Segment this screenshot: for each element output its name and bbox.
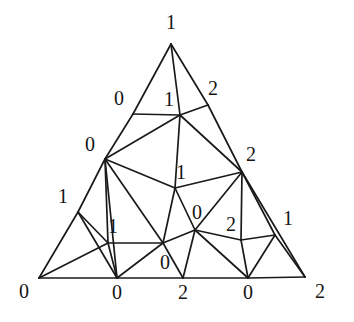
triangulation-edge bbox=[78, 159, 105, 212]
triangulation-edge bbox=[248, 235, 275, 278]
vertex-label-left-upper: 0 bbox=[114, 88, 124, 108]
triangulation-edge bbox=[163, 230, 195, 243]
vertex-label-bottom-2: 2 bbox=[178, 282, 188, 302]
vertex-label-inner-center: 1 bbox=[176, 162, 186, 182]
vertex-label-left-mid: 0 bbox=[85, 134, 95, 154]
triangulation-edge bbox=[117, 243, 163, 278]
triangulation-edge bbox=[180, 105, 208, 115]
triangulation-edge bbox=[248, 277, 305, 278]
vertex-label-apex: 1 bbox=[166, 12, 176, 32]
vertex-label-inner-right-low: 2 bbox=[226, 214, 236, 234]
vertex-label-bottom-1: 0 bbox=[112, 282, 122, 302]
triangulation-edge bbox=[105, 114, 133, 159]
vertex-label-inner-left: 1 bbox=[108, 216, 118, 236]
triangulation-edge bbox=[105, 115, 180, 159]
triangulation-edge bbox=[171, 44, 208, 105]
vertex-label-bottom-right-corner: 2 bbox=[315, 281, 325, 301]
vertex-label-inner-right: 0 bbox=[192, 202, 202, 222]
vertex-label-left-lower: 1 bbox=[58, 186, 68, 206]
triangulation-edge bbox=[208, 105, 242, 172]
vertex-label-bottom-3: 0 bbox=[243, 282, 253, 302]
vertex-label-right-upper: 2 bbox=[208, 78, 218, 98]
triangulation-edge bbox=[241, 172, 242, 240]
vertex-label-inner-bottom: 0 bbox=[160, 252, 170, 272]
edge-group bbox=[39, 44, 305, 278]
sperner-triangulation-figure: 012001221020111002 bbox=[0, 0, 354, 322]
vertex-label-right-lower: 1 bbox=[283, 208, 293, 228]
triangulation-edge bbox=[195, 230, 248, 278]
vertex-label-right-mid: 2 bbox=[246, 144, 256, 164]
vertex-label-bottom-left-corner: 0 bbox=[19, 281, 29, 301]
triangulation-edge bbox=[183, 230, 195, 278]
triangulation-edge bbox=[242, 172, 305, 277]
vertex-label-inner-top: 1 bbox=[164, 89, 174, 109]
triangulation-edge bbox=[241, 235, 275, 240]
triangulation-edge bbox=[180, 115, 242, 172]
triangulation-edge bbox=[163, 188, 175, 243]
triangulation-edge bbox=[133, 114, 180, 115]
